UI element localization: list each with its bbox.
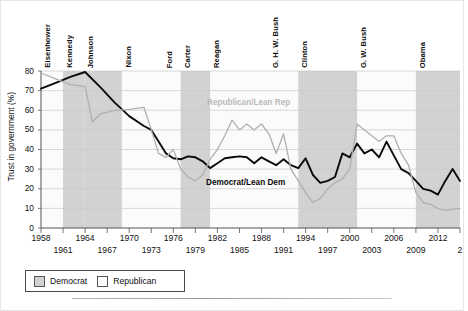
- president-label-ford: Ford: [165, 51, 174, 68]
- president-label-clinton: Clinton: [300, 41, 309, 68]
- x-tick-label: 1982: [202, 233, 232, 243]
- chart-legend: Democrat Republican: [25, 270, 185, 292]
- president-label-carter: Carter: [183, 45, 192, 68]
- x-tick-label: 2: [445, 245, 468, 255]
- x-tick-label: 2000: [335, 233, 365, 243]
- x-tick-label: 2006: [379, 233, 409, 243]
- y-tick-label: 40: [12, 144, 34, 154]
- x-tick-label: 1979: [180, 245, 210, 255]
- x-tick-label: 1994: [291, 233, 321, 243]
- x-tick-label: 1991: [269, 245, 299, 255]
- x-tick-label: 1973: [136, 245, 166, 255]
- legend-item-democrat: Democrat: [34, 276, 87, 287]
- y-tick-label: 10: [12, 203, 34, 213]
- president-label-reagan: Reagan: [212, 40, 221, 68]
- x-tick-label: 1997: [313, 245, 343, 255]
- president-label-g-h-w-bush: G. H. W. Bush: [271, 17, 280, 68]
- x-tick-label: 2012: [423, 233, 453, 243]
- x-tick-label: 1988: [247, 233, 277, 243]
- y-tick-label: 50: [12, 124, 34, 134]
- y-tick-label: 0: [12, 223, 34, 233]
- president-label-obama: Obama: [418, 42, 427, 68]
- y-tick-label: 70: [12, 85, 34, 95]
- president-label-eisenhower: Eisenhower: [43, 24, 52, 68]
- x-tick-label: 1961: [48, 245, 78, 255]
- x-tick-label: 1964: [70, 233, 100, 243]
- x-tick-label: 2009: [401, 245, 431, 255]
- y-tick-label: 30: [12, 164, 34, 174]
- series-label-republican: Republican/Lean Rep: [207, 98, 290, 107]
- y-tick-label: 80: [12, 66, 34, 76]
- president-label-g-w-bush: G. W. Bush: [359, 27, 368, 68]
- president-label-johnson: Johnson: [86, 36, 95, 68]
- president-label-nixon: Nixon: [124, 46, 133, 68]
- y-tick-label: 20: [12, 183, 34, 193]
- x-tick-label: 1967: [92, 245, 122, 255]
- bottom-rule: [72, 298, 392, 299]
- x-tick-label: 1970: [114, 233, 144, 243]
- series-label-democrat: Democrat/Lean Dem: [206, 178, 285, 187]
- x-tick-label: 1976: [158, 233, 188, 243]
- president-label-kennedy: Kennedy: [65, 35, 74, 68]
- y-tick-label: 60: [12, 105, 34, 115]
- legend-swatch-republican: [97, 276, 108, 287]
- x-tick-label: 2003: [357, 245, 387, 255]
- legend-swatch-democrat: [34, 276, 45, 287]
- legend-item-republican: Republican: [97, 276, 156, 287]
- legend-label-democrat: Democrat: [50, 276, 87, 286]
- x-tick-label: 1958: [26, 233, 56, 243]
- x-tick-label: 1985: [224, 245, 254, 255]
- legend-label-republican: Republican: [113, 276, 156, 286]
